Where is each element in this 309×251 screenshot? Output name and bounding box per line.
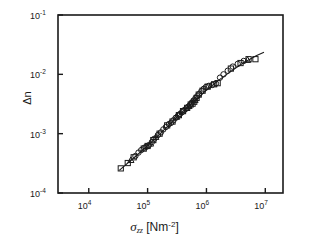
x-tick-label-0: 104 <box>78 199 92 211</box>
y-tick-label-3: 10-4 <box>30 187 46 199</box>
x-axis-label-subscript: zz <box>137 226 143 235</box>
x-axis-units-close: ] <box>175 220 178 234</box>
y-axis-label: Δn <box>12 85 42 111</box>
y-tick-label-2: 10-3 <box>30 128 46 140</box>
x-axis-units-open: [Nm <box>146 220 168 234</box>
x-tick-label-3: 107 <box>254 199 268 211</box>
plot-background <box>0 0 309 251</box>
y-tick-label-1: 10-2 <box>30 68 46 80</box>
x-tick-label-2: 106 <box>195 199 209 211</box>
y-tick-label-0: 10-1 <box>30 9 46 21</box>
x-axis-label: σzz [Nm-2] <box>0 219 309 235</box>
x-tick-label-1: 105 <box>137 199 151 211</box>
plot-canvas <box>0 0 309 251</box>
scatter-plot-figure: 10410510610710-110-210-310-4 Δn σzz [Nm-… <box>0 0 309 251</box>
